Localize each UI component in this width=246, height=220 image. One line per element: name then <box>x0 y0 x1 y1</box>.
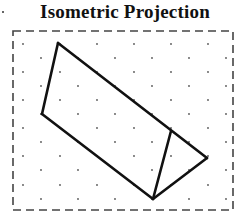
grid-dot <box>188 85 190 87</box>
grid-dot <box>225 141 227 143</box>
grid-dot <box>40 198 42 200</box>
shape-edge-top-right <box>58 43 207 158</box>
grid-dot <box>188 57 190 59</box>
grid-dot <box>133 43 135 45</box>
grid-dot <box>22 127 24 129</box>
grid-dot <box>133 71 135 73</box>
grid-dot <box>151 57 153 59</box>
grid-dot <box>207 71 209 73</box>
grid-dot <box>170 43 172 45</box>
dashed-frame <box>13 31 233 210</box>
shape-edge-top-left <box>42 43 58 114</box>
grid-dot <box>188 198 190 200</box>
grid-dot <box>133 127 135 129</box>
grid-dot <box>207 99 209 101</box>
grid-dot <box>40 85 42 87</box>
grid-dot <box>225 113 227 115</box>
grid-dot <box>40 141 42 143</box>
grid-dot <box>114 113 116 115</box>
triangular-prism-shape <box>42 43 207 199</box>
grid-dot <box>59 184 61 186</box>
grid-dot <box>96 184 98 186</box>
grid-dot <box>207 155 209 157</box>
grid-dot <box>225 169 227 171</box>
grid-dot <box>170 155 172 157</box>
grid-dot <box>170 71 172 73</box>
grid-dot <box>77 198 79 200</box>
grid-dot <box>40 57 42 59</box>
grid-dot <box>22 71 24 73</box>
grid-dot <box>207 184 209 186</box>
grid-dot <box>151 141 153 143</box>
grid-dot <box>22 155 24 157</box>
isometric-diagram <box>0 0 246 220</box>
grid-dot <box>40 169 42 171</box>
grid-dot <box>59 71 61 73</box>
grid-dot <box>96 43 98 45</box>
grid-dot <box>114 198 116 200</box>
grid-dot <box>133 155 135 157</box>
grid-dot <box>22 43 24 45</box>
grid-dot <box>22 184 24 186</box>
grid-dot <box>59 99 61 101</box>
grid-dot <box>170 99 172 101</box>
grid-dot <box>96 99 98 101</box>
grid-dot <box>207 127 209 129</box>
grid-dot <box>188 113 190 115</box>
grid-dot <box>114 141 116 143</box>
grid-dot <box>22 99 24 101</box>
grid-dot <box>77 113 79 115</box>
grid-dot <box>96 127 98 129</box>
grid-dot <box>225 198 227 200</box>
grid-dot <box>114 57 116 59</box>
grid-dot <box>151 85 153 87</box>
grid-dot <box>59 155 61 157</box>
grid-dot <box>77 169 79 171</box>
shape-edge-left-bottom <box>42 114 153 199</box>
grid-dot <box>225 57 227 59</box>
grid-dot <box>207 43 209 45</box>
grid-dot <box>77 85 79 87</box>
grid-dot <box>225 85 227 87</box>
grid-dot <box>151 169 153 171</box>
frame-border <box>13 31 233 210</box>
